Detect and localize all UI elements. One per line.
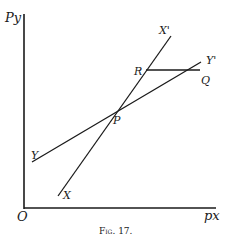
label-x: X (62, 189, 72, 202)
label-r: R (133, 65, 142, 78)
figure-caption: Fig. 17. (99, 226, 133, 236)
label-y: Y (31, 149, 40, 162)
y-axis-label: Py (4, 10, 22, 25)
origin-label: O (17, 209, 28, 224)
label-p: P (112, 114, 121, 127)
figure-17-diagram: Py px O X X' Y Y' P R Q Fig. 17. (0, 0, 237, 246)
label-q: Q (201, 74, 210, 87)
label-y-prime: Y' (206, 54, 216, 67)
label-x-prime: X' (158, 24, 170, 37)
x-axis-label: px (204, 208, 220, 223)
line-yy-prime (32, 62, 201, 162)
